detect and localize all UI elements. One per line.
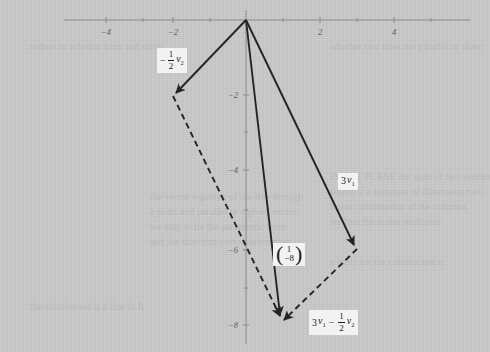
sum-fraction-numerator: 1 bbox=[338, 312, 345, 321]
plot-canvas: −4 −2 2 4 −2 −4 −6 −8 bbox=[0, 0, 490, 352]
right-paren: ) bbox=[295, 245, 302, 264]
y-tick-label: −8 bbox=[228, 320, 239, 330]
vector-3v1 bbox=[246, 20, 354, 245]
x-tick-label: 4 bbox=[392, 27, 397, 37]
x-tick-label: 2 bbox=[318, 27, 323, 37]
left-paren: ( bbox=[276, 245, 283, 264]
label-resultant-column-vector: ( 1 −8 ) bbox=[273, 243, 305, 266]
column-vector-entry-2: −8 bbox=[284, 254, 294, 263]
label-3v1: 3 v1 bbox=[338, 173, 358, 190]
column-vector-entries: 1 −8 bbox=[283, 245, 295, 264]
label-minus-sign: − bbox=[160, 56, 166, 66]
coefficient-3: 3 bbox=[341, 176, 346, 186]
vector-dashed-from-minus-half-v2 bbox=[173, 96, 280, 316]
x-tick-label: −4 bbox=[101, 27, 112, 37]
sum-coefficient-3: 3 bbox=[312, 318, 317, 328]
fraction-one-half: 1 2 bbox=[168, 50, 175, 71]
sum-vector-symbol-v1: v1 bbox=[318, 316, 326, 329]
sum-vector-symbol-v2: v2 bbox=[347, 316, 355, 329]
x-tick-label: −2 bbox=[168, 27, 179, 37]
fraction-denominator: 2 bbox=[168, 62, 175, 71]
vector-resultant bbox=[246, 20, 280, 315]
vector-symbol-v1: v1 bbox=[347, 175, 355, 188]
sum-fraction-denominator: 2 bbox=[338, 324, 345, 333]
sum-minus-sign: − bbox=[327, 318, 337, 328]
vector-symbol-v2: v2 bbox=[176, 54, 184, 67]
sum-fraction-one-half: 1 2 bbox=[338, 312, 345, 333]
label-sum-3v1-minus-half-v2: 3 v1 − 1 2 v2 bbox=[309, 310, 358, 335]
fraction-numerator: 1 bbox=[168, 50, 175, 59]
y-tick-label: −6 bbox=[228, 245, 239, 255]
y-tick-label: −2 bbox=[228, 90, 239, 100]
y-tick-label: −4 bbox=[228, 165, 239, 175]
label-minus-half-v2: − 1 2 v2 bbox=[157, 48, 187, 73]
vector-diagram-figure: the vector equation of the line through … bbox=[0, 0, 490, 352]
